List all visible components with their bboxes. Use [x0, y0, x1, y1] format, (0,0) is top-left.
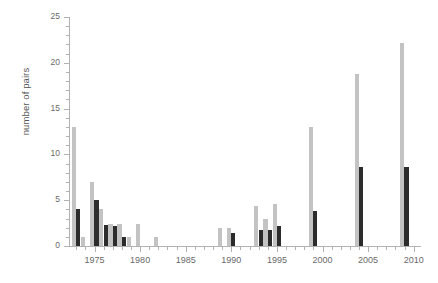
x-axis-minor-tick	[113, 247, 114, 250]
bar-dark-1975	[94, 200, 98, 246]
x-axis-minor-tick	[386, 247, 387, 250]
bar-light-1982	[154, 237, 158, 246]
bar-light-1980	[136, 224, 140, 246]
bar-dark-1990	[231, 233, 235, 246]
x-axis-minor-tick	[341, 247, 342, 250]
x-axis-major-tick	[231, 247, 232, 252]
x-axis-minor-tick	[131, 247, 132, 250]
x-axis-tick-label: 2005	[348, 255, 388, 265]
bar-dark-1978	[122, 237, 126, 246]
x-axis-tick-label: 1985	[166, 255, 206, 265]
x-axis-minor-tick	[76, 247, 77, 250]
x-axis-tick-label: 2000	[303, 255, 343, 265]
x-axis-minor-tick	[313, 247, 314, 250]
x-axis-major-tick	[277, 247, 278, 252]
x-axis-tick-label: 1990	[211, 255, 251, 265]
bar-dark-2009	[404, 167, 408, 246]
x-axis-minor-tick	[240, 247, 241, 250]
x-axis-minor-tick	[286, 247, 287, 250]
bar-dark-1999	[313, 211, 317, 246]
bar-dark-1977	[113, 226, 117, 246]
x-axis-minor-tick	[213, 247, 214, 250]
x-axis-minor-tick	[104, 247, 105, 250]
bar-dark-1995	[277, 226, 281, 246]
bar-dark-1994	[268, 230, 272, 246]
x-axis-minor-tick	[268, 247, 269, 250]
x-axis-minor-tick	[167, 247, 168, 250]
x-axis-minor-tick	[158, 247, 159, 250]
bar-dark-1973	[76, 209, 80, 246]
x-axis-major-tick	[323, 247, 324, 252]
bar-dark-1976	[104, 225, 108, 246]
x-axis-minor-tick	[295, 247, 296, 250]
x-axis-minor-tick	[359, 247, 360, 250]
y-axis-tick-label: 20	[36, 57, 60, 67]
y-axis-tick-label: 25	[36, 11, 60, 21]
y-axis-tick-label: 15	[36, 103, 60, 113]
x-axis-tick-label: 2010	[394, 255, 434, 265]
bars-layer	[69, 17, 421, 246]
x-axis-minor-tick	[332, 247, 333, 250]
x-axis-tick-label: 1995	[257, 255, 297, 265]
x-axis-major-tick	[414, 247, 415, 252]
x-axis-minor-tick	[177, 247, 178, 250]
x-axis-major-tick	[368, 247, 369, 252]
y-axis-tick-label: 0	[36, 240, 60, 250]
x-axis-major-tick	[95, 247, 96, 252]
x-axis-minor-tick	[222, 247, 223, 250]
x-axis-tick-label: 1975	[75, 255, 115, 265]
x-axis-minor-tick	[405, 247, 406, 250]
bar-light-1979	[127, 237, 131, 246]
y-axis-tick-label: 5	[36, 194, 60, 204]
bar-dark-1993	[259, 230, 263, 246]
x-axis-minor-tick	[377, 247, 378, 250]
x-axis-minor-tick	[85, 247, 86, 250]
x-axis-minor-tick	[149, 247, 150, 250]
bar-chart-figure: number of pairs 0510152025 1975198019851…	[0, 0, 438, 283]
bar-light-1989	[218, 228, 222, 246]
y-axis-title: number of pairs	[20, 47, 31, 157]
bar-light-1974	[81, 237, 85, 246]
x-axis-minor-tick	[395, 247, 396, 250]
x-axis-minor-tick	[304, 247, 305, 250]
x-axis-minor-tick	[250, 247, 251, 250]
x-axis-minor-tick	[195, 247, 196, 250]
x-axis-tick-label: 1980	[120, 255, 160, 265]
x-axis-minor-tick	[122, 247, 123, 250]
x-axis-major-tick	[140, 247, 141, 252]
bar-dark-2004	[359, 167, 363, 246]
x-axis-minor-tick	[350, 247, 351, 250]
x-axis-major-tick	[186, 247, 187, 252]
y-axis-tick-label: 10	[36, 148, 60, 158]
x-axis-minor-tick	[259, 247, 260, 250]
y-axis-major-tick	[64, 246, 69, 247]
x-axis-minor-tick	[204, 247, 205, 250]
